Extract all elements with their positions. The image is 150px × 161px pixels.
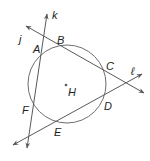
point-label-f: F (22, 104, 30, 116)
point-label-e: E (54, 126, 62, 138)
point-label-d: D (104, 100, 112, 112)
point-label-b: B (57, 34, 64, 46)
line-label-j: j (17, 33, 22, 45)
point-label-a: A (32, 43, 40, 55)
circle-h (28, 45, 106, 123)
line-label-l: ℓ (130, 65, 135, 77)
geometry-diagram: k j ℓ A B C D E F H (0, 0, 150, 161)
point-label-h: H (68, 86, 76, 98)
line-label-k: k (52, 9, 58, 21)
center-point-dot (65, 84, 68, 87)
point-label-c: C (106, 60, 114, 72)
